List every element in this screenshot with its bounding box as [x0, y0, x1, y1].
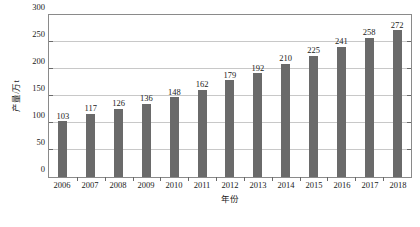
bar[interactable]: 258 [365, 38, 374, 177]
bar[interactable]: 136 [142, 104, 151, 177]
bar-value-label: 103 [57, 112, 70, 121]
bar-slot: 126 [105, 15, 133, 177]
x-axis-tick-label: 2010 [160, 181, 188, 190]
bar[interactable]: 103 [58, 121, 67, 177]
y-axis-tick-label: 150 [32, 83, 45, 92]
bar[interactable]: 179 [225, 80, 234, 177]
y-axis-tick-label: 50 [37, 137, 46, 146]
bar-slot: 225 [300, 15, 328, 177]
bar-slot: 210 [272, 15, 300, 177]
bar-value-label: 126 [112, 99, 125, 108]
x-axis-tick-label: 2006 [48, 181, 76, 190]
bar-slot: 179 [216, 15, 244, 177]
bar-slot: 258 [355, 15, 383, 177]
y-axis-tick-label: 0 [41, 164, 45, 173]
bar[interactable]: 117 [86, 114, 95, 177]
bars-layer: 103 117 126 136 148 [49, 15, 411, 177]
bar-value-label: 272 [391, 21, 404, 30]
bar[interactable]: 225 [309, 56, 318, 178]
bar[interactable]: 210 [281, 64, 290, 177]
x-axis-tick-label: 2009 [132, 181, 160, 190]
bar-value-label: 179 [224, 71, 237, 80]
bar[interactable]: 241 [337, 47, 346, 177]
bar-slot: 241 [327, 15, 355, 177]
x-axis-tick-label: 2011 [188, 181, 216, 190]
bar-value-label: 148 [168, 88, 181, 97]
y-axis-tick-label: 100 [32, 110, 45, 119]
x-axis-tick-labels: 2006 2007 2008 2009 2010 2011 2012 2013 … [48, 181, 412, 190]
x-axis-tick-label: 2015 [300, 181, 328, 190]
bar-slot: 162 [188, 15, 216, 177]
bar-value-label: 136 [140, 94, 153, 103]
bar-value-label: 258 [363, 28, 376, 37]
y-axis-tick-label: 250 [32, 29, 45, 38]
bar-slot: 192 [244, 15, 272, 177]
x-axis-tick-label: 2012 [216, 181, 244, 190]
x-axis-tick-label: 2017 [356, 181, 384, 190]
x-axis-tick-label: 2008 [104, 181, 132, 190]
bar[interactable]: 192 [253, 73, 262, 177]
y-axis-title: 产量/万t [12, 80, 21, 112]
x-axis-tick-label: 2016 [328, 181, 356, 190]
plot-area: 0 50 100 150 200 250 300 103 117 [48, 14, 412, 178]
bar[interactable]: 162 [198, 90, 207, 177]
bar-value-label: 162 [196, 80, 209, 89]
y-axis-title-container: 产量/万t [2, 14, 16, 178]
bar[interactable]: 272 [393, 30, 402, 177]
bar-value-label: 210 [279, 54, 292, 63]
bar-value-label: 192 [251, 64, 264, 73]
bar-slot: 136 [133, 15, 161, 177]
bar-chart: 产量/万t 0 50 100 150 200 250 300 103 [0, 0, 420, 227]
x-axis-tick-label: 2013 [244, 181, 272, 190]
bar-value-label: 225 [307, 46, 320, 55]
x-axis-tick-label: 2007 [76, 181, 104, 190]
y-axis-tick-label: 300 [32, 2, 45, 11]
bar-slot: 148 [160, 15, 188, 177]
bar-value-label: 117 [85, 104, 97, 113]
x-axis-tick-label: 2018 [384, 181, 412, 190]
x-axis-tick-label: 2014 [272, 181, 300, 190]
bar-slot: 103 [49, 15, 77, 177]
x-axis-title: 年份 [48, 195, 412, 204]
bar-slot: 272 [383, 15, 411, 177]
bar[interactable]: 126 [114, 109, 123, 177]
y-axis-tick-label: 200 [32, 56, 45, 65]
bar[interactable]: 148 [170, 97, 179, 177]
bar-slot: 117 [77, 15, 105, 177]
bar-value-label: 241 [335, 37, 348, 46]
